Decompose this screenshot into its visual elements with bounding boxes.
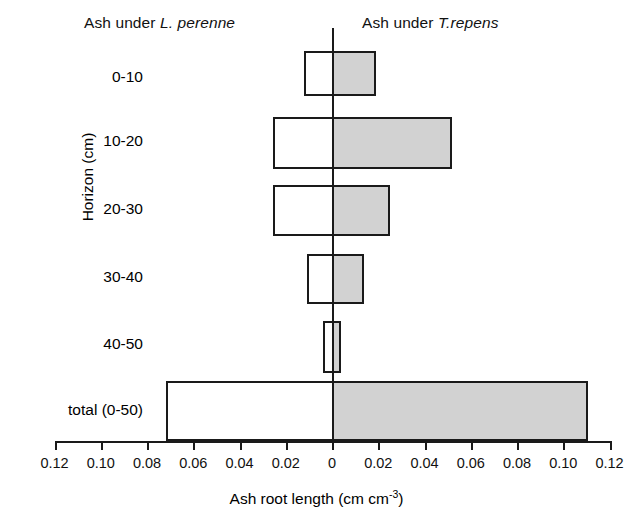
x-axis-tick-label-7: 0.02: [364, 455, 392, 471]
bar-left-1: [273, 117, 334, 169]
x-axis-title: Ash root length (cm cm-3): [0, 490, 633, 508]
x-axis-tick-label-12: 0.12: [595, 455, 623, 471]
bar-right-3: [332, 254, 364, 304]
x-axis-tick-2: [147, 441, 149, 450]
bar-right-4: [332, 321, 341, 373]
x-axis-title-text: Ash root length (cm cm: [230, 490, 389, 507]
x-axis-tick-12: [610, 441, 612, 450]
bar-left-0: [304, 51, 334, 96]
x-axis-tick-5: [286, 441, 288, 450]
x-axis-tick-label-3: 0.06: [179, 455, 207, 471]
bar-right-0: [332, 51, 376, 96]
x-axis-tick-10: [517, 441, 519, 450]
x-axis-tick-8: [425, 441, 427, 450]
x-axis-tick-label-0: 0.12: [40, 455, 68, 471]
x-axis-tick-label-1: 0.10: [87, 455, 115, 471]
bar-right-2: [332, 185, 390, 236]
x-axis-tick-6: [332, 441, 334, 450]
x-axis-tick-label-4: 0.04: [225, 455, 253, 471]
bar-left-3: [307, 254, 334, 304]
x-axis-tick-label-6: 0: [328, 455, 336, 471]
plot-area: [55, 28, 610, 441]
x-axis-tick-11: [563, 441, 565, 450]
x-axis-tick-label-2: 0.08: [133, 455, 161, 471]
bar-right-1: [332, 117, 452, 169]
x-axis-tick-7: [378, 441, 380, 450]
bar-right-5: [332, 381, 588, 441]
x-axis-tick-label-10: 0.08: [503, 455, 531, 471]
x-axis-title-tail: ): [398, 490, 403, 507]
x-axis-tick-label-9: 0.06: [457, 455, 485, 471]
bar-left-2: [273, 185, 334, 236]
x-axis-tick-3: [193, 441, 195, 450]
x-axis-tick-4: [240, 441, 242, 450]
x-axis-tick-1: [101, 441, 103, 450]
x-axis-tick-label-8: 0.04: [410, 455, 438, 471]
x-axis-tick-label-11: 0.10: [549, 455, 577, 471]
x-axis-title-superscript: -3: [389, 488, 398, 500]
chart-figure: Ash under L. perenne Ash under T.repens …: [0, 0, 633, 527]
x-axis-tick-label-5: 0.02: [272, 455, 300, 471]
x-axis-tick-9: [471, 441, 473, 450]
bar-left-5: [166, 381, 335, 441]
x-axis-tick-0: [55, 441, 57, 450]
